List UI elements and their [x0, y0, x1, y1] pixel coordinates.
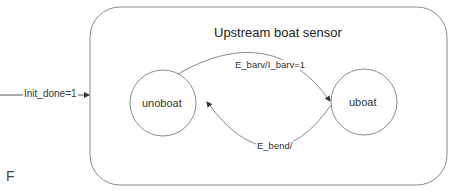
superstate-title: Upstream boat sensor — [214, 26, 342, 39]
transition-label-barv: E_barv/I_barv=1 — [234, 60, 306, 70]
state-uboat-label: uboat — [349, 97, 377, 108]
transition-label-bend: E_bend/ — [256, 141, 293, 151]
corner-letter: F — [6, 169, 15, 183]
initial-transition-label: Init_done=1 — [23, 89, 78, 99]
state-unoboat-label: unoboat — [142, 98, 182, 109]
